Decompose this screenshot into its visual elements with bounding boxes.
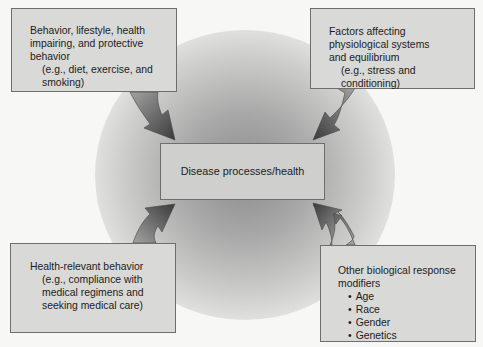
box-title-line: impairing, and protective bbox=[30, 37, 176, 50]
bullet-item: Gender bbox=[348, 316, 475, 329]
box-example-line: seeking medical care) bbox=[30, 299, 175, 312]
factor-box-physiological-systems: Factors affecting physiological systems … bbox=[310, 8, 475, 89]
box-title-line: modifiers bbox=[338, 277, 475, 290]
box-example-line: medical regimens and bbox=[30, 286, 175, 299]
box-title-line: and equilibrium bbox=[329, 51, 474, 64]
box-example-line: (e.g., compliance with bbox=[30, 273, 175, 286]
bullet-item: Genetics bbox=[348, 329, 475, 342]
box-title-line: physiological systems bbox=[329, 38, 474, 51]
box-title-line: behavior bbox=[30, 50, 176, 63]
factor-box-biological-response-modifiers: Other biological response modifiers Age … bbox=[320, 245, 476, 342]
factor-box-behavior-lifestyle: Behavior, lifestyle, health impairing, a… bbox=[11, 8, 177, 92]
box-example-line: (e.g., stress and bbox=[329, 64, 474, 77]
bullet-item: Race bbox=[348, 303, 475, 316]
box-title-line: Factors affecting bbox=[329, 25, 474, 38]
arrow-top-left-icon bbox=[130, 92, 175, 140]
arrow-bottom-left-icon bbox=[133, 204, 175, 243]
center-box-disease-processes: Disease processes/health bbox=[160, 143, 325, 200]
box-title-line: Health-relevant behavior bbox=[30, 260, 175, 273]
box-example-line: conditioning) bbox=[329, 77, 474, 90]
box-example-line: (e.g., diet, exercise, and bbox=[30, 63, 176, 76]
modifier-bullet-list: Age Race Gender Genetics bbox=[338, 290, 475, 342]
bullet-item: Age bbox=[348, 290, 475, 303]
arrow-bottom-right-shaft-icon bbox=[313, 203, 342, 245]
box-example-line: smoking) bbox=[30, 76, 176, 89]
box-title-line: Behavior, lifestyle, health bbox=[30, 24, 176, 37]
center-label: Disease processes/health bbox=[181, 165, 305, 178]
box-title-line: Other biological response bbox=[338, 264, 475, 277]
arrow-top-right-icon bbox=[313, 88, 355, 140]
factor-box-health-relevant-behavior: Health-relevant behavior (e.g., complian… bbox=[10, 243, 176, 333]
